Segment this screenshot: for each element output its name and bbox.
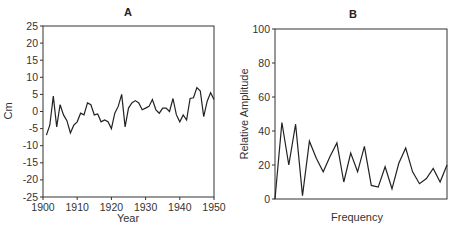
panel-a-y-axis: 2520151050-5-10-15-20-25	[23, 20, 43, 203]
y-tick-label: 25	[26, 20, 38, 32]
y-tick-label: 20	[26, 37, 38, 49]
y-tick-label: -15	[23, 156, 38, 168]
y-tick-label: -5	[29, 122, 38, 134]
y-tick-label: 60	[258, 91, 270, 103]
y-tick-label: 100	[252, 23, 270, 35]
x-tick-label: 1950	[202, 201, 226, 213]
y-tick-label: 5	[32, 88, 38, 100]
x-tick-label: 1940	[168, 201, 192, 213]
panel-a-y-label: Cm	[2, 102, 14, 119]
panel-a-time-series: A 2520151050-5-10-15-20-25 1900191019201…	[2, 6, 226, 224]
panel-b-data-line	[275, 123, 447, 200]
panel-a-title: A	[124, 6, 132, 18]
y-tick-label: 0	[264, 193, 270, 205]
figure: A 2520151050-5-10-15-20-25 1900191019201…	[0, 0, 459, 233]
panel-a-data-line	[46, 88, 214, 136]
x-tick-label: 1910	[66, 201, 90, 213]
y-tick-label: 10	[26, 71, 38, 83]
y-tick-label: 0	[32, 105, 38, 117]
panel-b-y-axis: 100806040200	[252, 23, 275, 205]
y-tick-label: -10	[23, 139, 38, 151]
panel-b-x-label: Frequency	[331, 211, 383, 223]
panel-a-x-axis: 190019101920193019401950	[31, 197, 226, 213]
y-tick-label: 15	[26, 54, 38, 66]
y-tick-label: 20	[258, 159, 270, 171]
panel-b-title: B	[349, 8, 357, 20]
panel-a-x-label: Year	[117, 212, 140, 224]
y-tick-label: -20	[23, 173, 38, 185]
panel-b-spectrum: B 100806040200 Frequency Relative Amplit…	[238, 8, 447, 223]
y-tick-label: 80	[258, 57, 270, 69]
panel-b-y-label: Relative Amplitude	[238, 68, 250, 159]
y-tick-label: 40	[258, 125, 270, 137]
x-tick-label: 1900	[31, 201, 55, 213]
